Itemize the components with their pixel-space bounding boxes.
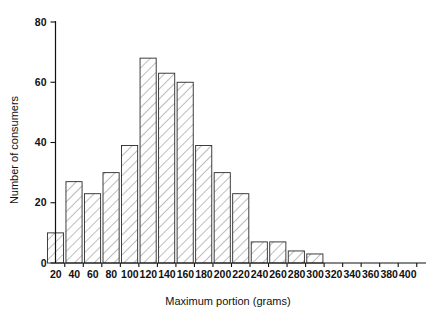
y-tick-label: 60 [35,76,47,88]
x-tick-label: 40 [68,268,80,280]
x-tick-label: 340 [343,268,361,280]
histogram-bar [270,242,286,263]
x-tick-label: 60 [87,268,99,280]
histogram-bar [196,146,212,263]
x-tick-label: 100 [121,268,139,280]
x-tick-label: 240 [251,268,269,280]
x-tick-label: 180 [195,268,213,280]
histogram-bar [66,182,82,263]
y-tick-label: 20 [35,196,47,208]
x-axis-title: Maximum portion (grams) [165,295,290,307]
x-tick-label: 200 [214,268,232,280]
histogram-figure: 020406080 204060801001201401601802002202… [0,0,446,322]
x-tick-label: 120 [140,268,158,280]
x-tick-label: 260 [269,268,287,280]
x-tick-label: 160 [177,268,195,280]
histogram-bar [122,146,138,263]
x-tick-label: 280 [288,268,306,280]
histogram-bar [233,194,249,263]
histogram-bar [288,251,304,263]
x-tick-label: 320 [325,268,343,280]
histogram-bar [159,73,175,263]
x-tick-label: 400 [399,268,417,280]
histogram-bar [103,173,119,263]
histogram-bar [140,58,156,263]
x-tick-label: 220 [232,268,250,280]
histogram-bar [251,242,267,263]
y-tick-label: 40 [35,136,47,148]
histogram-canvas: 020406080 204060801001201401601802002202… [0,0,446,322]
x-tick-label: 140 [158,268,176,280]
x-tick-label: 300 [306,268,324,280]
x-tick-label: 360 [362,268,380,280]
y-tick-label: 0 [41,257,47,269]
y-axis-title: Number of consumers [8,95,20,204]
histogram-bar [214,173,230,263]
histogram-bar [84,194,100,263]
y-tick-label: 80 [35,16,47,28]
histogram-bar [307,254,323,263]
x-tick-label: 80 [105,268,117,280]
x-tick-label: 380 [380,268,398,280]
x-tick-label: 20 [50,268,62,280]
histogram-bar [177,82,193,263]
